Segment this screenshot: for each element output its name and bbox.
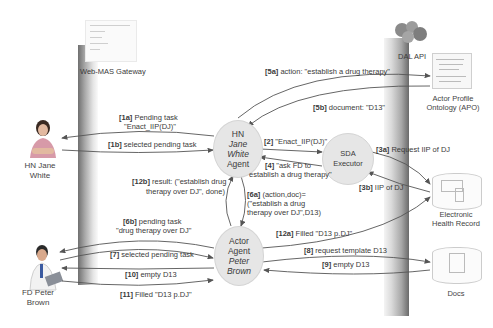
msg-9: [9] empty D13 [322, 260, 370, 269]
msg-12b-id: [12b] [132, 177, 150, 186]
msg-1b-text: selected pending task [124, 140, 197, 149]
msg-3a-id: [3a] [376, 145, 389, 154]
msg-9-id: [9] [322, 260, 331, 269]
msg-5b-text: document: "D13" [329, 103, 385, 112]
msg-2-id: [2] [264, 137, 273, 146]
msg-12a-text: Filled "D13 p.DJ" [296, 229, 353, 238]
actor-agent-label-2: Agent [228, 246, 250, 256]
msg-4-line2: establish a drug therapy" [249, 170, 332, 179]
msg-8: [8] request template D13 [304, 246, 387, 255]
msg-1b-id: [1b] [108, 140, 122, 149]
msg-6a-line2: ("establish a drug [247, 199, 305, 208]
msg-12a-id: [12a] [276, 229, 294, 238]
msg-7: [7] selected pending task [110, 250, 194, 259]
hn-agent-label-2: Jane [229, 139, 247, 149]
msg-9-text: empty D13 [333, 260, 369, 269]
msg-6a-text: (action,doc)= [262, 190, 306, 199]
msg-11-text: Filled "D13 p.DJ" [135, 290, 192, 299]
msg-11: [11] Filled "D13 p.DJ" [120, 290, 192, 299]
msg-5a-text: action: "establish a drug therapy" [280, 67, 390, 76]
msg-6b-text: pending task [139, 217, 182, 226]
actor-agent-label-4: Brown [227, 266, 251, 276]
actor-agent-peter-brown-node[interactable]: Actor Agent Peter Brown [214, 226, 264, 286]
msg-11-id: [11] [120, 290, 133, 299]
msg-10: [10] empty D13 [125, 270, 177, 279]
msg-4-text: "ask FD to [276, 161, 311, 170]
msg-3a-text: Request IIP of DJ [391, 145, 450, 154]
msg-3a: [3a] Request IIP of DJ [376, 145, 450, 154]
msg-5b-id: [5b] [313, 103, 327, 112]
msg-2-text: "Enact_IIP(DJ)" [275, 137, 327, 146]
msg-6a-id: [6a] [247, 190, 260, 199]
msg-4-id: [4] [265, 161, 274, 170]
msg-5a: [5a] action: "establish a drug therapy" [265, 67, 390, 76]
msg-12b-text: result: ("establish drug [152, 177, 226, 186]
actor-agent-label-1: Actor [229, 236, 249, 246]
actor-agent-label-3: Peter [229, 256, 249, 266]
hn-agent-label-4: Agent [227, 159, 249, 169]
msg-6b-line2: "drug therapy over DJ" [116, 226, 191, 235]
hn-agent-label-1: HN [232, 129, 244, 139]
msg-7-text: selected pending task [121, 250, 194, 259]
sda-label-2: Executor [333, 159, 363, 169]
msg-1a: [1a] Pending task [119, 113, 178, 122]
msg-10-text: empty D13 [140, 270, 176, 279]
msg-5a-id: [5a] [265, 67, 278, 76]
msg-6a-line3: therapy over DJ",D13) [247, 208, 321, 217]
msg-12b-line2: therapy over DJ", done) [146, 187, 225, 196]
msg-3b-text: IIP of DJ [375, 183, 404, 192]
msg-8-id: [8] [304, 246, 313, 255]
msg-12b: [12b] result: ("establish drug [132, 177, 226, 186]
msg-3b-id: [3b] [359, 183, 373, 192]
msg-6a: [6a] (action,doc)= [247, 190, 306, 199]
msg-6b-id: [6b] [123, 217, 137, 226]
msg-6b: [6b] pending task [123, 217, 181, 226]
msg-1a-line2: "Enact_IIP(DJ)" [124, 122, 176, 131]
msg-8-text: request template D13 [315, 246, 387, 255]
sda-label-1: SDA [340, 149, 355, 159]
msg-3b: [3b] IIP of DJ [359, 183, 403, 192]
hn-agent-label-3: White [227, 149, 249, 159]
msg-1b: [1b] selected pending task [108, 140, 196, 149]
msg-4: [4] "ask FD to [265, 161, 311, 170]
msg-1a-id: [1a] [119, 113, 132, 122]
msg-12a: [12a] Filled "D13 p.DJ" [276, 229, 352, 238]
msg-10-id: [10] [125, 270, 138, 279]
msg-1a-text: Pending task [134, 113, 177, 122]
msg-7-id: [7] [110, 250, 119, 259]
msg-5b: [5b] document: "D13" [313, 103, 385, 112]
msg-2: [2] "Enact_IIP(DJ)" [264, 137, 327, 146]
